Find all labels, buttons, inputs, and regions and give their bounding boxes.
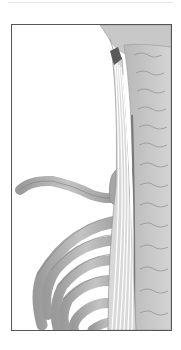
clavicle (20, 181, 116, 198)
top-divider (8, 2, 173, 3)
illustration-frame (11, 24, 172, 331)
anatomy-illustration (12, 25, 171, 330)
